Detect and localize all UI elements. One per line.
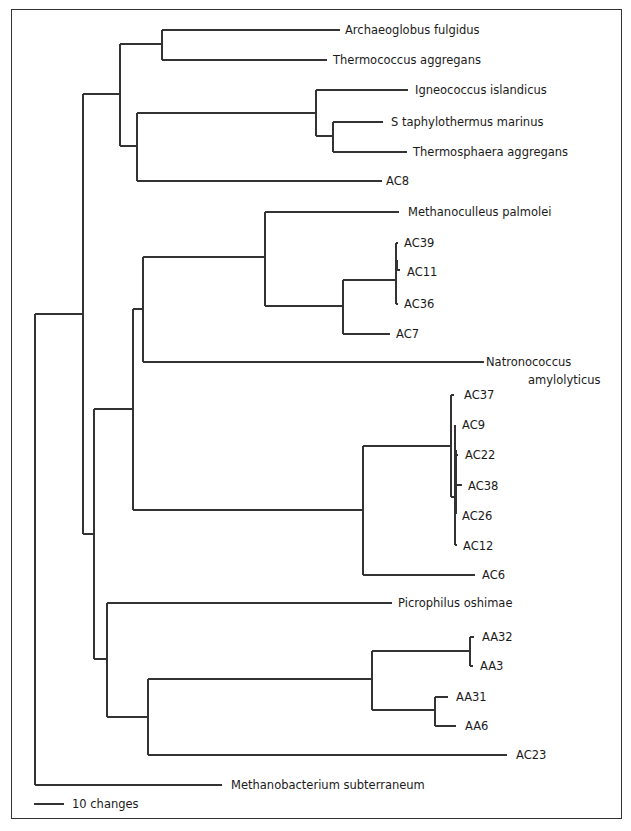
- taxon-label: AC23: [516, 748, 546, 762]
- taxon-label: AA6: [465, 719, 488, 733]
- taxon-label: AC12: [463, 539, 493, 553]
- taxon-label: Thermosphaera aggregans: [413, 145, 568, 159]
- taxon-label: AC8: [386, 174, 409, 188]
- taxon-label: AA32: [482, 630, 513, 644]
- taxon-label: AC39: [404, 236, 434, 250]
- taxon-label: AC36: [404, 297, 434, 311]
- taxon-label: AC38: [468, 479, 498, 493]
- taxon-label: Thermococcus aggregans: [333, 53, 481, 67]
- taxon-label: Methanobacterium subterraneum: [231, 778, 425, 792]
- taxon-label: S taphylothermus marinus: [391, 115, 543, 129]
- taxon-label: Igneococcus islandicus: [415, 83, 547, 97]
- taxon-label: AC37: [464, 388, 494, 402]
- taxon-label: AA3: [480, 659, 503, 673]
- taxon-label: amylolyticus: [528, 373, 601, 387]
- taxon-label: AC11: [407, 265, 437, 279]
- taxon-label: Natronococcus: [486, 355, 571, 369]
- taxon-label: AC7: [396, 327, 419, 341]
- taxon-label: Archaeoglobus fulgidus: [345, 23, 480, 37]
- taxon-label: AA31: [456, 690, 487, 704]
- scale-bar-label: 10 changes: [72, 797, 139, 811]
- taxon-label: AC9: [462, 418, 485, 432]
- taxon-label: AC6: [482, 568, 505, 582]
- taxon-label: Picrophilus oshimae: [398, 596, 512, 610]
- taxon-label: AC26: [462, 509, 492, 523]
- taxon-label: Methanoculleus palmolei: [408, 205, 551, 219]
- taxon-label: AC22: [465, 448, 495, 462]
